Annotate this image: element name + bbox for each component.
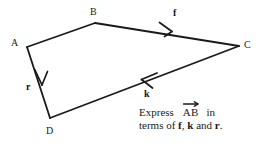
vertex-label-c: C bbox=[244, 40, 251, 50]
question-line-2: terms of f, k and r. bbox=[139, 119, 265, 132]
edge-AB bbox=[27, 23, 95, 47]
question-words-terms-of: terms of bbox=[139, 119, 175, 131]
vector-ab-term: AB bbox=[183, 101, 199, 119]
question-text: Express AB in terms of f, k and r. bbox=[139, 101, 265, 132]
vector-question-figure: A B C D f k r Express AB in terms of f, … bbox=[0, 0, 267, 145]
vector-label-f: f bbox=[173, 8, 176, 18]
vertex-label-a: A bbox=[11, 38, 18, 48]
vector-label-r: r bbox=[26, 82, 30, 92]
question-line-1: Express AB in bbox=[139, 101, 265, 119]
vector-label-k: k bbox=[144, 89, 150, 99]
question-word-express: Express bbox=[139, 106, 174, 119]
vertex-label-b: B bbox=[90, 7, 97, 17]
vertex-label-d: D bbox=[46, 126, 53, 136]
overarrow-icon bbox=[183, 101, 199, 107]
vector-ab-text: AB bbox=[183, 106, 199, 119]
question-period: . bbox=[220, 119, 223, 131]
question-word-and: and bbox=[196, 119, 212, 131]
question-word-in: in bbox=[207, 106, 216, 119]
